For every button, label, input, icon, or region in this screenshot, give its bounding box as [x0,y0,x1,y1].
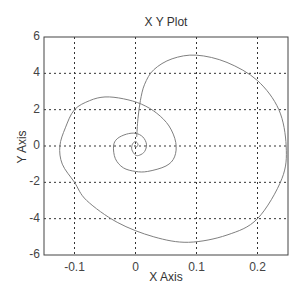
y-tick-label: 4 [10,65,40,79]
y-tick-label: -2 [10,174,40,188]
x-tick-label: 0 [121,260,151,274]
y-tick-label: 2 [10,102,40,116]
plot-area [0,0,303,304]
x-tick-label: -0.1 [60,260,90,274]
y-tick-label: 0 [10,138,40,152]
x-tick-label: 0.1 [182,260,212,274]
y-tick-label: 6 [10,29,40,43]
data-line-spiral [60,55,287,242]
y-tick-label: -4 [10,211,40,225]
x-tick-label: 0.2 [243,260,273,274]
y-tick-label: -6 [10,247,40,261]
